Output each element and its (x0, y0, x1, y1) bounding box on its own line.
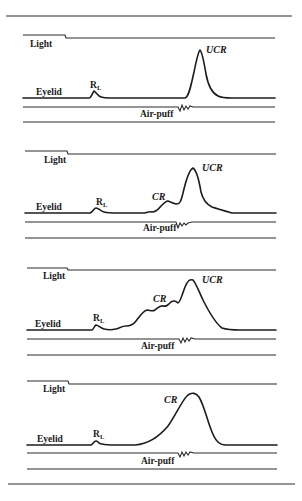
light-label: Light (43, 271, 66, 281)
light-label: Light (43, 384, 66, 394)
eyelid-trace (27, 280, 276, 330)
light-trace (25, 151, 276, 154)
rl-label: RL (93, 313, 105, 324)
ucr-label: UCR (206, 44, 227, 55)
air-puff-label: Air-puff (141, 341, 175, 351)
light-trace (27, 268, 276, 270)
eyelid-label: Eyelid (37, 434, 64, 444)
eyelid-label: Eyelid (36, 87, 63, 97)
air-puff-label: Air-puff (141, 456, 175, 466)
air-puff-label: Air-puff (143, 223, 177, 233)
rl-label: RL (96, 197, 108, 208)
rl-label: RL (93, 429, 105, 440)
panel-3: Light Eyelid RL CR UCR Air-puff (27, 268, 276, 355)
eyelid-trace (27, 393, 277, 445)
panel-2: Light Eyelid RL CR UCR Air-puff (25, 151, 276, 238)
air-puff-label: Air-puff (140, 109, 174, 119)
cr-label: CR (164, 394, 178, 405)
light-label: Light (44, 155, 67, 165)
eyeblink-conditioning-figure: Light Eyelid RL UCR Air-puff Light Eyeli… (0, 0, 302, 501)
panel-4: Light Eyelid RL CR Air-puff (27, 381, 277, 469)
cr-label: CR (153, 293, 167, 304)
eyelid-label: Eyelid (36, 202, 63, 212)
ucr-label: UCR (202, 274, 223, 285)
eyelid-trace (25, 168, 276, 213)
light-trace (23, 35, 275, 38)
ucr-label: UCR (202, 162, 223, 173)
light-label: Light (30, 39, 53, 49)
cr-label: CR (152, 191, 166, 202)
rl-label: RL (90, 80, 102, 91)
panel-1: Light Eyelid RL UCR Air-puff (23, 35, 275, 122)
eyelid-label: Eyelid (35, 319, 62, 329)
